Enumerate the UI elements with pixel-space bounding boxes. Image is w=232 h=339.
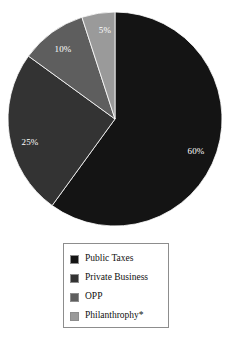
- pie-slice-value-label: 60%: [187, 146, 204, 156]
- pie-slice-value-label: 10%: [54, 44, 71, 54]
- pie-plot-area: 60%25%10%5%: [0, 0, 232, 240]
- legend-item-philanthrophy[interactable]: Philanthrophy*: [70, 307, 168, 325]
- legend-swatch-opp: [70, 293, 79, 302]
- legend-swatch-philanthrophy: [70, 312, 79, 321]
- legend-label-opp: OPP: [85, 292, 102, 302]
- pie-slices: [8, 12, 222, 226]
- legend-swatch-private-business: [70, 274, 79, 283]
- pie-svg: 60%25%10%5%: [0, 0, 232, 240]
- legend-item-opp[interactable]: OPP: [70, 288, 168, 306]
- legend-box: Public Taxes Private Business OPP Philan…: [63, 243, 169, 328]
- pie-slice-value-label: 5%: [99, 25, 112, 35]
- legend-swatch-public-taxes: [70, 255, 79, 264]
- pie-chart-figure: 60%25%10%5% Public Taxes Private Busines…: [0, 0, 232, 339]
- legend-item-private-business[interactable]: Private Business: [70, 269, 168, 287]
- legend-item-public-taxes[interactable]: Public Taxes: [70, 250, 168, 268]
- legend-label-private-business: Private Business: [85, 273, 148, 283]
- pie-slice-value-label: 25%: [21, 137, 38, 147]
- legend-label-philanthrophy: Philanthrophy*: [85, 311, 144, 321]
- legend-label-public-taxes: Public Taxes: [85, 254, 134, 264]
